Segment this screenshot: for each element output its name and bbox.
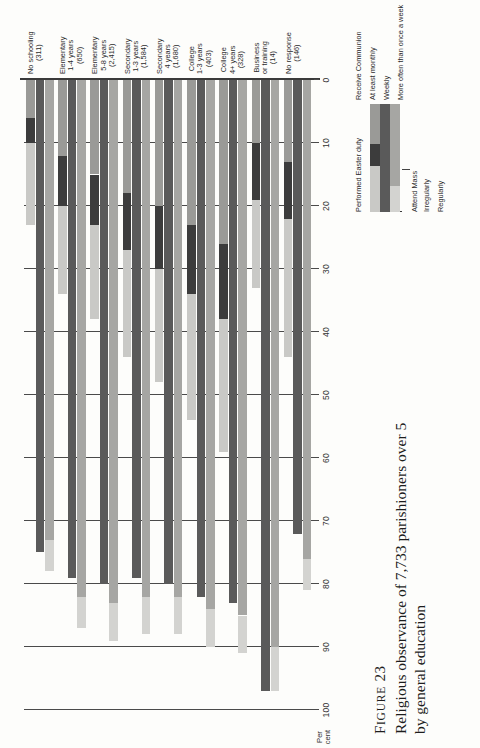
segment-at-least-monthly xyxy=(252,200,261,288)
bar-attend-mass xyxy=(174,40,183,740)
axis-tick-label-20: 20 xyxy=(321,201,331,211)
legend-swatch-regularly xyxy=(390,104,400,186)
segment-weekly xyxy=(123,193,132,250)
segment-regularly xyxy=(238,80,247,616)
bar-performed-easter-duty xyxy=(36,40,45,740)
bar-attend-mass xyxy=(45,40,54,740)
segment-weekly xyxy=(219,244,228,320)
axis-tick-90 xyxy=(314,646,319,647)
category-label-line-3: (14) xyxy=(269,41,277,74)
bar-attend-mass xyxy=(109,40,118,740)
category-label: College1-3 years(403) xyxy=(188,43,213,74)
segment-regularly xyxy=(271,80,280,647)
bar-receive-communion xyxy=(58,40,67,740)
bar-attend-mass xyxy=(271,40,280,740)
category-label: Secondary4 years(1,680) xyxy=(156,39,181,74)
segment-more-often-than-once-a-week xyxy=(90,80,99,175)
axis-tick-100 xyxy=(314,709,319,710)
legend-swatch-weekly xyxy=(370,144,380,166)
bar-receive-communion xyxy=(252,40,261,740)
bar-group xyxy=(153,40,185,740)
segment-at-least-monthly xyxy=(187,294,196,420)
bar-group xyxy=(250,40,282,740)
legend-stem-attend-mass xyxy=(402,169,410,170)
segment-at-least-monthly xyxy=(284,219,293,358)
segment-weekly xyxy=(252,143,261,200)
axis-tick-30 xyxy=(314,268,319,269)
segment-regularly xyxy=(109,80,118,603)
bar-performed-easter-duty xyxy=(100,40,109,740)
legend-label-attend-mass: Attend Mass xyxy=(410,171,419,212)
bar-attend-mass xyxy=(303,40,312,740)
segment-at-least-monthly xyxy=(123,250,132,357)
legend-swatch-at-least-monthly xyxy=(370,166,380,212)
axis-tick-label-60: 60 xyxy=(321,453,331,463)
segment-easter-duty xyxy=(164,80,173,584)
segment-more-often-than-once-a-week xyxy=(187,80,196,225)
segment-more-often-than-once-a-week xyxy=(219,80,228,244)
segment-more-often-than-once-a-week xyxy=(155,80,164,206)
figure-number: 23 xyxy=(372,665,388,681)
category-label-line-2: (311) xyxy=(35,31,43,74)
segment-easter-duty xyxy=(68,80,77,578)
category-label: No schooling(311) xyxy=(27,31,43,74)
segment-more-often-than-once-a-week xyxy=(284,80,293,162)
segment-easter-duty xyxy=(293,80,302,534)
segment-at-least-monthly xyxy=(155,269,164,382)
segment-more-often-than-once-a-week xyxy=(58,80,67,156)
category-label-line-2: (146) xyxy=(293,32,301,74)
segment-irregularly xyxy=(45,540,54,572)
bar-performed-easter-duty xyxy=(132,40,141,740)
bar-group xyxy=(24,40,56,740)
bar-performed-easter-duty xyxy=(261,40,270,740)
segment-irregularly xyxy=(303,559,312,591)
category-label: Secondary1-3 years(1,584) xyxy=(124,39,149,74)
axis-tick-60 xyxy=(314,457,319,458)
bar-receive-communion xyxy=(123,40,132,740)
category-label: College4+ years(328) xyxy=(220,45,245,74)
segment-irregularly xyxy=(238,616,247,654)
bar-attend-mass xyxy=(206,40,215,740)
segment-easter-duty xyxy=(197,80,206,597)
legend-swatch-irregularly xyxy=(390,186,400,212)
segment-irregularly xyxy=(142,597,151,635)
figure-word-cap: F xyxy=(372,725,388,734)
segment-weekly xyxy=(90,175,99,225)
segment-easter-duty xyxy=(229,80,238,603)
segment-at-least-monthly xyxy=(58,206,67,294)
legend-label-receive-communion: Receive Communion xyxy=(354,31,363,100)
segment-regularly xyxy=(206,80,215,609)
bar-group xyxy=(217,40,249,740)
axis-tick-80 xyxy=(314,583,319,584)
segment-more-often-than-once-a-week xyxy=(26,80,35,118)
legend-label-at-least-monthly: At least monthly xyxy=(368,47,377,100)
axis-tick-label-0: 0 xyxy=(321,78,331,83)
legend: Attend Mass Irregularly Regularly Perfor… xyxy=(352,32,472,212)
segment-weekly xyxy=(155,206,164,269)
category-label-line-3: (2,415) xyxy=(108,37,116,74)
axis-title: Percent xyxy=(316,724,333,748)
caption-line-2: by general education xyxy=(410,214,429,734)
segment-regularly xyxy=(303,80,312,559)
axis-tick-20 xyxy=(314,205,319,206)
figure-caption: FIGURE 23 Religious observance of 7,733 … xyxy=(372,214,429,734)
bar-performed-easter-duty xyxy=(197,40,206,740)
rotated-figure-plate: 1009080706050403020100Percent No schooli… xyxy=(0,0,480,748)
segment-irregularly xyxy=(77,597,86,629)
segment-easter-duty xyxy=(100,80,109,584)
axis-tick-70 xyxy=(314,520,319,521)
legend-label-weekly: Weekly xyxy=(382,76,391,100)
chart-area: 1009080706050403020100Percent No schooli… xyxy=(24,40,336,740)
segment-regularly xyxy=(77,80,86,597)
segment-more-often-than-once-a-week xyxy=(252,80,261,143)
caption-line-1: Religious observance of 7,733 parishione… xyxy=(391,214,410,734)
bar-group xyxy=(282,40,314,740)
legend-label-regularly: Regularly xyxy=(436,181,445,212)
segment-weekly xyxy=(58,156,67,206)
figure-word-smallcaps: IGURE xyxy=(375,686,387,725)
segment-regularly xyxy=(45,80,54,540)
bar-attend-mass xyxy=(77,40,86,740)
bar-attend-mass xyxy=(238,40,247,740)
bar-performed-easter-duty xyxy=(293,40,302,740)
segment-irregularly xyxy=(271,647,280,691)
